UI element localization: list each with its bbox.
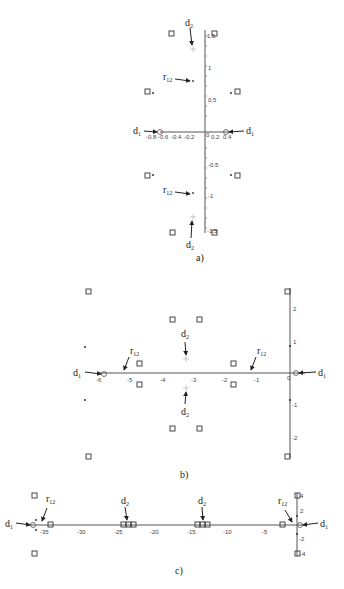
caption-c: c) bbox=[175, 565, 183, 577]
label-d1: d1 bbox=[5, 518, 13, 530]
x-tick: 0.2 bbox=[211, 134, 220, 140]
r12-marker bbox=[192, 80, 194, 82]
y-tick: -1 bbox=[292, 402, 298, 408]
label-r12: r12 bbox=[257, 345, 266, 357]
panel-c: 4 2 -2 -4 -35 -30 -25 -20 -15 -10 -5 d1 … bbox=[5, 493, 328, 577]
pole-marker bbox=[169, 31, 174, 36]
label-r12: r12 bbox=[163, 71, 172, 83]
r12-marker bbox=[192, 192, 194, 194]
x-tick: -2 bbox=[222, 377, 228, 383]
label-r12: r12 bbox=[130, 345, 139, 357]
pole-marker bbox=[285, 289, 290, 294]
label-r12: r12 bbox=[163, 184, 172, 196]
pole-marker bbox=[145, 89, 150, 94]
zero-marker bbox=[35, 519, 37, 521]
zero-marker bbox=[296, 515, 298, 517]
label-d1: d1 bbox=[320, 518, 328, 530]
x-tick: -30 bbox=[77, 529, 86, 535]
pole-marker bbox=[32, 493, 37, 498]
pole-marker bbox=[145, 173, 150, 178]
y-tick: -0.5 bbox=[208, 162, 219, 168]
zero-marker bbox=[289, 345, 291, 347]
zero-marker bbox=[152, 92, 154, 94]
x-tick: -1 bbox=[254, 377, 260, 383]
caption-a: a) bbox=[196, 252, 204, 264]
panel-b: 2 1 -1 -2 -6 -5 -4 -3 -2 -1 0 d1 d1 bbox=[73, 288, 326, 481]
zero-marker bbox=[296, 533, 298, 535]
d2-marker bbox=[183, 385, 189, 391]
d2-marker bbox=[190, 46, 196, 52]
x-tick: 0.4 bbox=[223, 134, 232, 140]
y-tick: 0.5 bbox=[208, 97, 217, 103]
x-tick: -10 bbox=[223, 529, 232, 535]
figure-canvas: 1.5 1 0.5 -0.5 -1 -1.5 -0.8 -0.6 -0.4 -0… bbox=[0, 0, 344, 589]
d2-marker bbox=[183, 356, 189, 362]
y-tick: 4 bbox=[300, 493, 304, 499]
pole-marker bbox=[86, 454, 91, 459]
pole-marker bbox=[32, 551, 37, 556]
pole-marker bbox=[170, 317, 175, 322]
x-tick: -25 bbox=[114, 529, 123, 535]
label-d1: d1 bbox=[73, 367, 81, 379]
label-d1: d1 bbox=[133, 125, 141, 137]
x-tick: 0 bbox=[206, 132, 210, 138]
pole-marker bbox=[170, 230, 175, 235]
x-tick: -5 bbox=[262, 529, 268, 535]
y-tick: -4 bbox=[300, 551, 306, 557]
panel-a: 1.5 1 0.5 -0.5 -1 -1.5 -0.8 -0.6 -0.4 -0… bbox=[133, 17, 254, 264]
x-tick: -0.2 bbox=[184, 134, 195, 140]
x-tick: -0.4 bbox=[171, 134, 182, 140]
label-d1: d1 bbox=[318, 367, 326, 379]
label-r12: r12 bbox=[278, 495, 287, 507]
label-d2: d2 bbox=[198, 495, 206, 507]
label-d2: d2 bbox=[186, 239, 194, 251]
x-tick: -3 bbox=[191, 377, 197, 383]
x-tick: -20 bbox=[150, 529, 159, 535]
caption-b: b) bbox=[180, 469, 188, 481]
zero-marker bbox=[84, 346, 86, 348]
x-tick: -0.6 bbox=[158, 134, 169, 140]
pole-marker bbox=[197, 317, 202, 322]
y-tick: 2 bbox=[300, 508, 304, 514]
pole-marker bbox=[170, 426, 175, 431]
pole-marker bbox=[231, 361, 236, 366]
d1-marker bbox=[102, 372, 107, 377]
pole-marker bbox=[86, 289, 91, 294]
label-d2: d2 bbox=[185, 17, 193, 29]
label-d2: d2 bbox=[181, 328, 189, 340]
x-tick: -5 bbox=[127, 377, 133, 383]
zero-marker bbox=[230, 92, 232, 94]
pole-marker bbox=[235, 173, 240, 178]
x-tick: -35 bbox=[40, 529, 49, 535]
y-tick: 1 bbox=[208, 65, 212, 71]
zero-marker bbox=[230, 174, 232, 176]
pole-marker bbox=[137, 361, 142, 366]
x-tick: -4 bbox=[160, 377, 166, 383]
x-tick: -15 bbox=[187, 529, 196, 535]
y-tick: 1 bbox=[293, 339, 297, 345]
y-tick: 2 bbox=[293, 306, 297, 312]
label-d2: d2 bbox=[181, 406, 189, 418]
pole-marker bbox=[235, 89, 240, 94]
zero-marker bbox=[289, 399, 291, 401]
pole-marker bbox=[231, 382, 236, 387]
y-tick: -2 bbox=[292, 435, 298, 441]
y-tick: -2 bbox=[299, 536, 305, 542]
label-d2: d2 bbox=[121, 495, 129, 507]
x-tick: -6 bbox=[96, 377, 102, 383]
label-d1: d1 bbox=[246, 125, 254, 137]
y-tick: -1 bbox=[208, 193, 214, 199]
zero-marker bbox=[35, 529, 37, 531]
pole-marker bbox=[197, 426, 202, 431]
pole-marker bbox=[285, 454, 290, 459]
zero-marker bbox=[152, 174, 154, 176]
zero-marker bbox=[84, 399, 86, 401]
pole-marker bbox=[137, 382, 142, 387]
y-tick: -1.5 bbox=[207, 228, 218, 234]
label-r12: r12 bbox=[46, 493, 55, 505]
d2-marker bbox=[190, 214, 196, 220]
x-tick: -0.8 bbox=[146, 134, 157, 140]
